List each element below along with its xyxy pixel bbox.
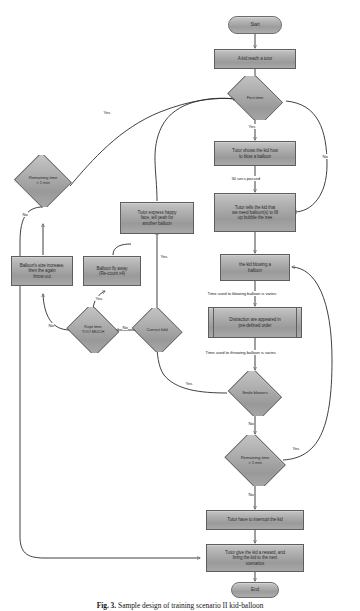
- edge-label-remaining-left-yes: Yes: [103, 110, 111, 115]
- node-tutor-reward: Tutor give the kid a reward, and bring t…: [206, 544, 304, 572]
- node-distraction-label: Distraction are appeared in pre-defined …: [227, 317, 282, 327]
- node-kid-blowing: the kid blowing a balloon: [220, 254, 290, 281]
- edge-label-remaining-right-yes: Yes: [292, 446, 300, 451]
- node-tutor-interrupt-label: Tutor have to interrupt the kid: [225, 517, 285, 522]
- node-start-label: Start: [248, 22, 261, 27]
- edge-label-first-time-yes: Yes: [248, 124, 256, 129]
- edge-label-correct-fold-no: No: [122, 325, 128, 330]
- node-remaining-time-left-label: Remaining time > 1 min: [27, 176, 59, 186]
- edge-label-correct-fold-yes: Yes: [160, 254, 168, 259]
- edge-label-throwing-varies: Time used to throwing balloon is varies: [205, 350, 276, 355]
- node-kid-blowing-label: the kid blowing a balloon: [237, 262, 273, 272]
- flowchart-nodes: Start A kid reach a tutor First time Tut…: [0, 0, 360, 611]
- node-kid-reach-tutor: A kid reach a tutor: [214, 49, 296, 69]
- figure-caption-label: Fig. 3.: [97, 601, 117, 610]
- edge-label-secs-passed: 30 secs passed: [231, 176, 261, 181]
- node-balloon-size-increase: Balloon's size increase, then the again …: [11, 256, 73, 286]
- node-smile-blowers: Smile blowers: [226, 371, 284, 416]
- edge-label-blowing-varies: Time used to blowing balloon is varies: [207, 291, 277, 296]
- edge-label-smile-no: No: [248, 421, 254, 426]
- node-end-label: End: [249, 587, 261, 592]
- node-tutor-tells-need-balloon: Tutor tells the kid that we need balloon…: [214, 193, 296, 232]
- edge-label-smile-yes: Yes: [185, 381, 193, 386]
- node-balloon-size-increase-label: Balloon's size increase, then the again …: [18, 263, 66, 278]
- node-remaining-time-left: Remaining time > 1 min: [14, 155, 72, 207]
- edge-label-first-time-no: No: [322, 154, 328, 159]
- node-correct-fold-label: Correct fold: [144, 328, 169, 333]
- edge-label-remaining-left-no: No: [22, 212, 28, 217]
- edge-label-kept-time-no: No: [48, 323, 54, 328]
- node-kept-time-too-much: Kept time TOO MUCH: [66, 307, 120, 353]
- node-tutor-express-happy-label: Tutor express happy face, tell yeah for …: [136, 210, 179, 225]
- node-tutor-interrupt: Tutor have to interrupt the kid: [206, 510, 304, 530]
- node-tutor-reward-label: Tutor give the kid a reward, and bring t…: [223, 550, 287, 565]
- node-tutor-shows-how-label: Tutor shows the kid how to blow a balloo…: [230, 148, 280, 158]
- node-remaining-time-right-label: Remaining time > 1 min: [239, 456, 271, 466]
- figure-canvas: Start A kid reach a tutor First time Tut…: [0, 0, 360, 611]
- node-end: End: [231, 582, 279, 598]
- figure-caption: Fig. 3. Sample design of training scenar…: [0, 601, 360, 610]
- node-kid-reach-tutor-label: A kid reach a tutor: [236, 56, 274, 61]
- node-kept-time-too-much-label: Kept time TOO MUCH: [80, 325, 107, 335]
- edge-label-kept-time-yes: Yes: [95, 296, 103, 301]
- figure-caption-text: Sample design of training scenario II ki…: [118, 601, 263, 610]
- node-tutor-shows-how: Tutor shows the kid how to blow a balloo…: [214, 141, 296, 166]
- node-first-time-label: First time: [245, 96, 266, 101]
- node-smile-blowers-label: Smile blowers: [240, 391, 269, 396]
- node-start: Start: [228, 16, 282, 34]
- node-remaining-time-right: Remaining time > 1 min: [222, 435, 288, 486]
- node-tutor-express-happy: Tutor express happy face, tell yeah for …: [120, 202, 194, 234]
- node-balloon-fly-away-label: Balloon fly away (Re-count x4): [95, 266, 130, 276]
- node-correct-fold: Correct fold: [131, 308, 183, 352]
- node-first-time: First time: [224, 76, 286, 120]
- edge-label-remaining-right-no: No: [248, 492, 254, 497]
- node-distraction: Distraction are appeared in pre-defined …: [208, 307, 302, 338]
- node-balloon-fly-away: Balloon fly away (Re-count x4): [83, 256, 141, 286]
- node-tutor-tells-need-balloon-label: Tutor tells the kid that we need balloon…: [230, 205, 280, 220]
